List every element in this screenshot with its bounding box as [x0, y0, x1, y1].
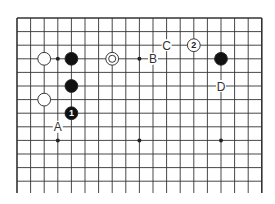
- black-stone: [215, 52, 228, 65]
- point-label-c: C: [162, 39, 171, 53]
- black-stone: [65, 80, 78, 93]
- star-point: [56, 138, 60, 142]
- board-grid: [17, 18, 262, 193]
- star-point: [137, 138, 141, 142]
- go-board: 21 ABCD: [0, 0, 275, 204]
- move-number: 2: [191, 40, 196, 50]
- white-stone: [38, 93, 51, 106]
- point-label-b: B: [149, 52, 157, 66]
- star-point: [219, 138, 223, 142]
- white-stone: 2: [187, 39, 200, 52]
- stones: 21: [38, 39, 228, 120]
- star-point: [56, 57, 60, 61]
- star-point: [137, 57, 141, 61]
- point-label-d: D: [217, 80, 226, 94]
- white-stone: [106, 52, 119, 65]
- black-stone: [65, 52, 78, 65]
- move-number: 1: [69, 108, 74, 118]
- white-stone: [38, 52, 51, 65]
- black-stone: 1: [65, 107, 78, 120]
- point-label-a: A: [54, 120, 62, 134]
